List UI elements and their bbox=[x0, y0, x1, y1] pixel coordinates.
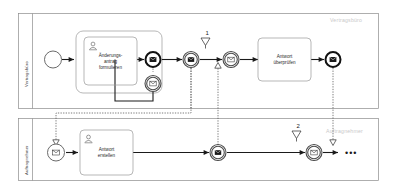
task-aenderungsantrag-line1: Änderungs- bbox=[99, 52, 123, 58]
task-aenderungsantrag-line2: antrag bbox=[104, 59, 117, 64]
flow-continuation-ellipsis: ••• bbox=[345, 148, 357, 158]
task-antwort-ueberpruefen-line2: überprüfen bbox=[273, 60, 296, 65]
end-event-message-1[interactable] bbox=[146, 52, 161, 67]
flow-arrowhead bbox=[300, 150, 305, 155]
flow-arrowhead bbox=[139, 57, 144, 62]
task-antwort-erstellen-line1: Antwort bbox=[99, 147, 115, 152]
task-antwort-erstellen[interactable]: Antwort erstellen bbox=[80, 130, 133, 175]
marker-2-number: 2 bbox=[297, 123, 301, 129]
funnel-triangle-icon bbox=[201, 38, 210, 49]
flow-arrowhead bbox=[69, 57, 74, 62]
message-flow-arrowhead bbox=[215, 63, 221, 69]
task-antwort-ueberpruefen-line1: Antwort bbox=[277, 54, 293, 59]
flow-arrowhead bbox=[253, 57, 258, 62]
end-event-message-2[interactable] bbox=[326, 52, 341, 67]
user-task-icon bbox=[85, 135, 93, 143]
flow-arrowhead bbox=[319, 57, 324, 62]
flow-arrowhead bbox=[217, 57, 222, 62]
marker-1-number: 1 bbox=[206, 30, 210, 36]
marker-2[interactable]: 2 bbox=[292, 123, 301, 142]
message-flow-arrowhead bbox=[330, 140, 336, 146]
funnel-triangle-icon bbox=[292, 131, 301, 142]
pool-auftragnehmer[interactable]: Auftragnehmer Auftragnehmer bbox=[19, 119, 379, 181]
pool-auftragnehmer-watermark: Auftragnehmer bbox=[326, 128, 363, 134]
intermediate-catch-message-1[interactable] bbox=[223, 52, 239, 68]
marker-1[interactable]: 1 bbox=[201, 30, 210, 49]
task-aenderungsantrag[interactable]: Änderungs- antrag formulieren bbox=[84, 37, 137, 85]
pool-vertragsbuero-watermark: Vertragsbüro bbox=[330, 17, 362, 23]
bpmn-svg-root: Vertragsbüro Vertragsbüro Auftragnehmer … bbox=[0, 0, 397, 193]
task-aenderungsantrag-line3: formulieren bbox=[99, 65, 122, 70]
task-antwort-ueberpruefen[interactable]: Antwort überprüfen bbox=[258, 38, 311, 81]
flow-arrowhead bbox=[204, 150, 209, 155]
bpmn-diagram-canvas: Vertragsbüro Vertragsbüro Auftragnehmer … bbox=[0, 0, 397, 193]
boundary-event-message[interactable] bbox=[145, 76, 161, 92]
intermediate-catch-message-2[interactable] bbox=[306, 145, 322, 161]
pool-auftragnehmer-lane-label: Auftragnehmer bbox=[24, 145, 29, 175]
start-event-blank[interactable] bbox=[45, 51, 62, 68]
start-event-message[interactable] bbox=[48, 144, 65, 161]
task-antwort-erstellen-line2: erstellen bbox=[98, 153, 116, 158]
intermediate-throw-message-2[interactable] bbox=[210, 145, 226, 161]
pool-auftragnehmer-frame bbox=[19, 119, 379, 181]
intermediate-throw-message-1[interactable] bbox=[183, 52, 199, 68]
user-task-icon bbox=[89, 42, 97, 50]
pool-vertragsbuero-lane-label: Vertragsbüro bbox=[24, 61, 29, 87]
flow-arrowhead bbox=[333, 150, 338, 155]
flow-arrowhead bbox=[177, 57, 182, 62]
flow-arrowhead bbox=[73, 150, 78, 155]
